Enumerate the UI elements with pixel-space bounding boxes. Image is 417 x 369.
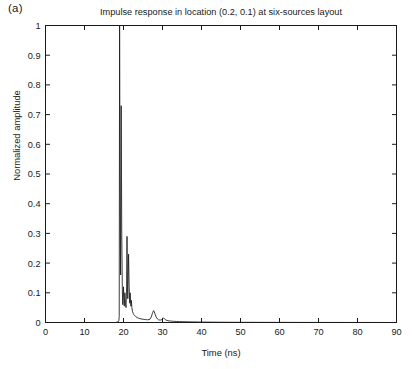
x-tick-label: 60: [274, 327, 284, 337]
y-tick-label: 0.9: [28, 51, 41, 61]
x-tick-label: 0: [43, 327, 48, 337]
x-tick-label: 80: [352, 327, 362, 337]
y-tick-label: 1: [35, 21, 40, 31]
y-tick-label: 0.1: [28, 288, 41, 298]
y-tick-label: 0.6: [28, 140, 41, 150]
data-line-impulse-response: [46, 26, 397, 323]
x-tick-label: 20: [118, 327, 128, 337]
data-series-group: [46, 26, 397, 323]
x-axis-label: Time (ns): [45, 347, 397, 358]
y-tick-label: 0.8: [28, 80, 41, 90]
x-tick-label: 50: [235, 327, 245, 337]
x-tick-label: 90: [391, 327, 401, 337]
y-tick-label: 0.5: [28, 169, 41, 179]
y-tick-label: 0.4: [28, 199, 41, 209]
y-axis-label: Normalized amplitude: [11, 66, 22, 206]
y-tick-label: 0.7: [28, 110, 41, 120]
axes-group: 010203040506070809000.10.20.30.40.50.60.…: [28, 21, 402, 337]
x-tick-label: 30: [157, 327, 167, 337]
y-tick-label: 0.2: [28, 259, 41, 269]
x-tick-label: 70: [313, 327, 323, 337]
x-tick-label: 40: [196, 327, 206, 337]
impulse-response-plot: 010203040506070809000.10.20.30.40.50.60.…: [0, 0, 417, 369]
x-tick-label: 10: [79, 327, 89, 337]
y-tick-label: 0.3: [28, 229, 41, 239]
y-tick-label: 0: [35, 318, 40, 328]
figure-container: (a) Impulse response in location (0.2, 0…: [0, 0, 417, 369]
